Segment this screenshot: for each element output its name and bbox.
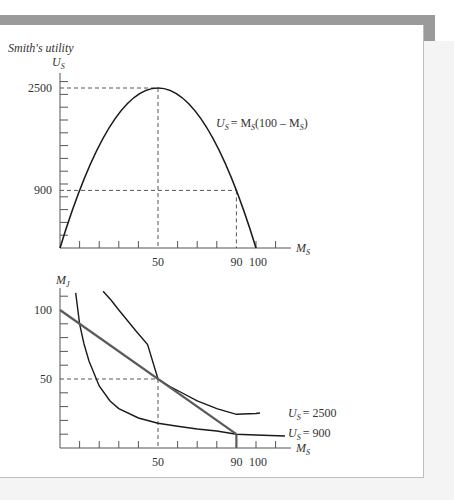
utility-formula: US= MS(100 – MS) <box>216 116 308 132</box>
top-y-label-2500: 2500 <box>28 81 52 95</box>
bottom-x-ticks <box>80 441 276 448</box>
top-x-label-90: 90 <box>230 255 242 269</box>
bottom-y-ticks <box>60 296 68 434</box>
top-y-label-900: 900 <box>34 183 52 197</box>
bottom-x-label-100: 100 <box>249 455 267 469</box>
curve-label-900: US= 900 <box>288 426 330 442</box>
top-x-axis-label: MS <box>295 241 310 257</box>
bottom-y-label-50: 50 <box>40 372 52 386</box>
indifference-curve-900 <box>76 293 285 436</box>
bottom-y-label-100: 100 <box>34 303 52 317</box>
bottom-chart: MJ 100 50 50 90 <box>34 273 336 469</box>
top-x-ticks <box>80 241 276 248</box>
top-chart-title: Smith's utility <box>8 41 74 55</box>
bottom-x-label-90: 90 <box>230 455 242 469</box>
bottom-reference-lines <box>60 379 158 448</box>
top-reference-lines <box>60 88 236 248</box>
bottom-y-axis-label: MJ <box>55 273 70 289</box>
bottom-x-axis-label: MS <box>295 441 310 457</box>
top-y-axis-label: US <box>52 55 65 71</box>
top-y-ticks <box>60 82 68 236</box>
bottom-x-label-50: 50 <box>152 455 164 469</box>
top-chart: Smith's utility US <box>8 41 310 269</box>
figure: Smith's utility US <box>0 0 454 500</box>
curve-label-2500: US= 2500 <box>288 406 336 422</box>
top-x-label-100: 100 <box>249 255 267 269</box>
budget-line <box>60 310 236 434</box>
top-x-label-50: 50 <box>152 255 164 269</box>
